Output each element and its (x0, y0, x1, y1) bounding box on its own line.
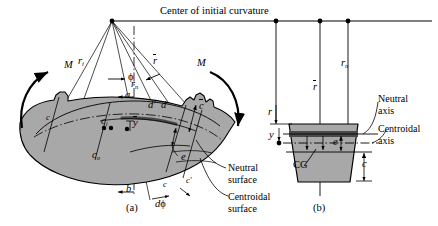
neutral-surface-label-line2: surface (228, 175, 257, 185)
panel-a-graphics (20, 19, 432, 200)
dist-e-label-a: e (181, 152, 186, 163)
figure-title: Center of initial curvature (160, 6, 269, 17)
point-c-prime-label: c′ (186, 176, 192, 185)
dist-e-label-b: e (333, 137, 338, 148)
point-b-label: b (126, 184, 131, 195)
moment-label-right: M (197, 58, 206, 69)
diagram-vector-layer (0, 0, 438, 226)
radius-neutral-label-a: rn (131, 79, 138, 91)
neutral-axis-label-line1: Neutral (378, 94, 408, 104)
centroidal-surface-label-line1: Centroidal (228, 192, 270, 202)
centroid-label: CG (293, 160, 308, 171)
point-d-prime-label: d′ (148, 100, 156, 111)
point-neutral-marker (109, 126, 113, 130)
centroidal-axis-label-line2: axis (378, 136, 394, 146)
point-d-label: d (161, 100, 166, 111)
dist-ci-label: ci (101, 116, 107, 128)
dist-ybar-label-a: y (133, 118, 138, 129)
radius-mean-label: r (153, 56, 157, 67)
phi-arrow-right (146, 74, 160, 80)
moment-label-left: M (64, 60, 73, 71)
centroidal-axis-label-line1: Centroidal (378, 124, 420, 134)
centroidal-surface-label-line2: surface (228, 204, 257, 214)
radius-neutral-label-b: rn (341, 58, 348, 70)
dist-y-label-b: y (269, 130, 274, 141)
neutral-axis-label-line2: axis (378, 106, 394, 116)
point-centroid-marker (125, 127, 129, 131)
radius-inner-label: ri (78, 56, 84, 68)
left-face-label: c (46, 113, 50, 122)
y-origin-point (277, 141, 282, 146)
dphi-arrow-2 (180, 188, 190, 196)
point-c-label: c (163, 180, 167, 189)
figure-canvas: Center of initial curvature M M ri r ϕ r… (0, 0, 438, 226)
panel-b-caption: (b) (313, 203, 325, 214)
point-a-label: a (125, 90, 130, 101)
panel-b-point-rn (346, 19, 351, 24)
dist-cbar-label-a: c (199, 101, 204, 112)
neutral-surface-label-line1: Neutral (228, 163, 258, 173)
radius-mean-label-b: r (313, 82, 317, 93)
panel-b-point-r (274, 19, 279, 24)
panel-b-graphics (270, 19, 386, 196)
dphi-label: dϕ (155, 199, 166, 210)
leader-neutral-axis (363, 102, 378, 134)
dist-r-label-b: r (268, 107, 272, 118)
dist-cbar-label-b: c (362, 159, 367, 170)
panel-a-caption: (a) (126, 203, 138, 214)
panel-b-point-rbar (318, 19, 323, 24)
dist-co-label: co (92, 150, 100, 162)
leader-centroidal-surface (200, 158, 228, 196)
